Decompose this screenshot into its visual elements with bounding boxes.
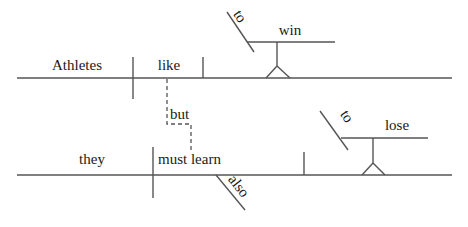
subject-1: Athletes (52, 57, 102, 73)
pedestal-1 (266, 42, 290, 78)
verb-2: must learn (158, 151, 221, 167)
conjunction-connector: but (167, 79, 191, 150)
pedestal-2 (362, 138, 385, 175)
conjunction: but (170, 106, 190, 122)
infinitive-verb-1: win (279, 22, 302, 38)
verb-1: like (158, 57, 181, 73)
infinitive-verb-2: lose (385, 117, 410, 133)
clause-2: they must learn also to lose (17, 107, 452, 210)
sentence-diagram: Athletes like to win but they must learn… (0, 0, 468, 227)
clause-1: Athletes like to win (17, 7, 452, 99)
subject-2: they (79, 151, 105, 167)
infinitive-marker-2: to (337, 107, 357, 126)
infinitive-marker-1: to (230, 7, 250, 26)
modifier: also (225, 171, 252, 200)
